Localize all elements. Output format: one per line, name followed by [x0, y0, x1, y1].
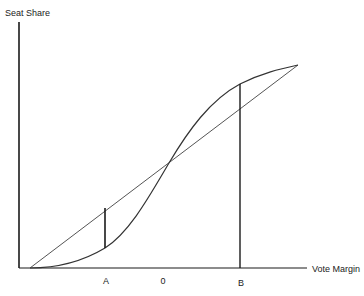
tick-label-a: A — [103, 276, 109, 286]
seat-vote-chart — [0, 0, 364, 296]
x-axis-label: Vote Margin — [312, 264, 360, 274]
y-axis-label: Seat Share — [5, 8, 50, 18]
tick-label-zero: 0 — [160, 276, 165, 286]
proportional-line — [30, 65, 298, 268]
tick-label-b: B — [238, 278, 244, 288]
